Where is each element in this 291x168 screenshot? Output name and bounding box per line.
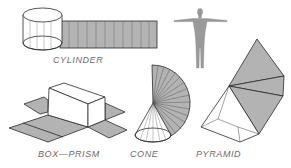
box-net-left-flap (24, 97, 48, 114)
cylinder-label: CYLINDER (53, 56, 103, 65)
pyramid-label: PYRAMID (196, 150, 241, 159)
cylinder-top (23, 8, 62, 22)
human-figure-icon (174, 9, 227, 68)
cylinder-illustration (23, 8, 157, 50)
box-prism-illustration (9, 83, 127, 142)
box-prism-label: BOX—PRISM (38, 150, 100, 159)
cone-label: CONE (130, 150, 158, 159)
box-net-right-flap (105, 103, 125, 120)
cone-illustration (135, 65, 191, 142)
unfolding-shapes-diagram (0, 0, 291, 168)
pyramid-illustration (201, 39, 284, 142)
cylinder-net-strip (60, 21, 157, 48)
